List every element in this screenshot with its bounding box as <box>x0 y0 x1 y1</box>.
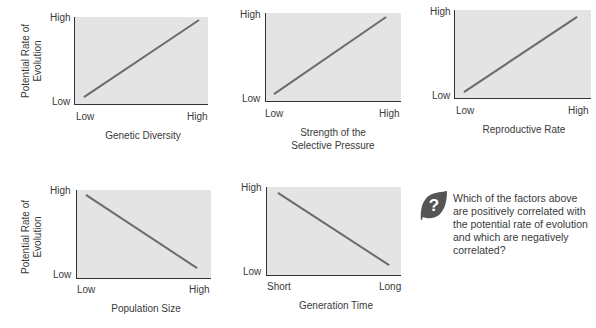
x-axis-title: Population Size <box>76 302 216 315</box>
trend-line <box>266 13 401 101</box>
trend-line <box>77 190 211 278</box>
x-tick-high: High <box>189 284 210 295</box>
plot-area <box>74 17 208 105</box>
x-tick-low: Low <box>77 284 95 295</box>
svg-text:?: ? <box>429 196 439 215</box>
plot-area <box>265 13 401 102</box>
y-tick-low: Low <box>52 96 70 107</box>
y-tick-high: High <box>430 6 451 17</box>
x-tick-high: High <box>568 105 589 116</box>
plot-area <box>76 190 211 279</box>
x-tick-high: High <box>187 111 208 122</box>
trend-line <box>455 10 591 98</box>
y-tick-high: High <box>50 185 71 196</box>
y-axis-title-row2: Potential Rate of Evolution <box>20 192 44 282</box>
y-tick-high: High <box>50 12 71 23</box>
plot-area <box>266 187 401 276</box>
x-tick-high: High <box>379 108 400 119</box>
x-tick-short: Short <box>267 281 291 292</box>
plot-area <box>454 10 591 99</box>
x-tick-low: Low <box>76 111 94 122</box>
y-tick-high: High <box>240 9 261 20</box>
question-leaf-icon: ? <box>418 190 448 222</box>
x-tick-low: Low <box>456 105 474 116</box>
x-axis-title: Reproductive Rate <box>454 123 594 136</box>
y-tick-low: Low <box>432 90 450 101</box>
x-tick-long: Long <box>379 281 401 292</box>
y-tick-low: Low <box>243 266 261 277</box>
x-axis-title: Strength of the Selective Pressure <box>263 126 403 152</box>
x-tick-low: Low <box>265 108 283 119</box>
y-tick-low: Low <box>242 93 260 104</box>
x-axis-title: Generation Time <box>266 299 406 312</box>
question-text: Which of the factors above are positivel… <box>453 192 588 257</box>
trend-line <box>75 17 208 104</box>
y-axis-title-row1: Potential Rate of Evolution <box>20 16 44 106</box>
y-tick-high: High <box>241 182 262 193</box>
trend-line <box>267 187 401 275</box>
y-tick-low: Low <box>53 269 71 280</box>
x-axis-title: Genetic Diversity <box>76 129 210 142</box>
